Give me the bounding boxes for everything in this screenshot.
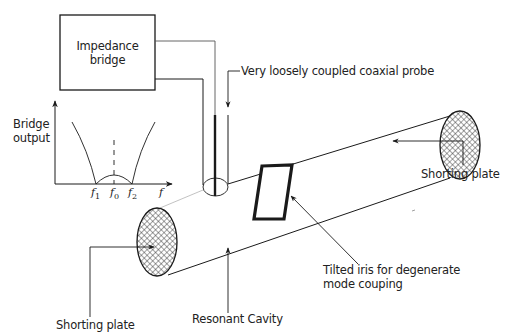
plot-ylabel-line2: output bbox=[13, 131, 50, 145]
iris-leader bbox=[291, 196, 358, 264]
tick-f1: f1 bbox=[91, 186, 100, 201]
plot-ylabel-line1: Bridge bbox=[13, 117, 50, 131]
iris-label-line1: Tilted iris for degenerate bbox=[323, 263, 460, 277]
tick-f1-sub: 1 bbox=[95, 192, 100, 201]
tilted-iris bbox=[254, 165, 292, 219]
resonant-cavity bbox=[168, 112, 463, 275]
diagram-canvas: Impedance bridge Very loosely coupled co… bbox=[0, 0, 505, 334]
probe-label: Very loosely coupled coaxial probe bbox=[241, 64, 434, 78]
iris-label: Tilted iris for degenerate mode couping bbox=[323, 263, 460, 291]
tick-f0: f0 bbox=[110, 186, 119, 201]
plot-xlabel: f bbox=[159, 186, 163, 199]
shorting-plate-right-label: Shorting plate bbox=[421, 167, 500, 181]
probe-leader bbox=[228, 71, 240, 107]
bridge-wire-outer bbox=[155, 41, 215, 150]
coaxial-probe bbox=[203, 115, 228, 196]
impedance-bridge-label: Impedance bridge bbox=[60, 39, 155, 67]
tick-f0-sub: 0 bbox=[114, 192, 119, 201]
cavity-label: Resonant Cavity bbox=[192, 312, 283, 326]
speck bbox=[412, 210, 415, 211]
shorting-plate-left-label: Shorting plate bbox=[56, 318, 135, 332]
plot-ylabel: Bridge output bbox=[13, 117, 50, 145]
shorting-plate-left bbox=[137, 208, 177, 276]
faint-guide-line bbox=[160, 190, 203, 208]
tick-f2-sub: 2 bbox=[132, 192, 137, 201]
tick-f2: f2 bbox=[128, 186, 137, 201]
impedance-bridge-label-line2: bridge bbox=[60, 53, 155, 67]
inset-plot bbox=[55, 101, 172, 184]
bridge-wire-inner bbox=[155, 79, 203, 150]
iris-label-line2: mode couping bbox=[323, 277, 460, 291]
impedance-bridge-label-line1: Impedance bbox=[60, 39, 155, 53]
